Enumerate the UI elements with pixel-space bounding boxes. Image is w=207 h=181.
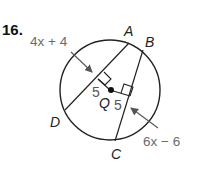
label-point-a: A <box>123 23 133 39</box>
label-center-q: Q <box>99 95 110 111</box>
label-distance-bc: 5 <box>114 97 122 113</box>
circle-chords-diagram: 16. 4x + 4 6x − 6 A B C D Q 5 <box>0 0 207 181</box>
center-point-q <box>108 87 114 93</box>
label-point-d: D <box>50 114 60 130</box>
arrow-ad-expression <box>71 52 92 72</box>
label-6x-minus-6: 6x − 6 <box>143 134 180 149</box>
label-point-b: B <box>145 34 154 50</box>
arrow-bc-expression <box>131 108 158 128</box>
geometry-figure: 4x + 4 6x − 6 A B C D Q 5 5 <box>0 0 207 181</box>
problem-number: 16. <box>2 21 23 38</box>
label-distance-ad: 5 <box>92 84 100 100</box>
label-point-c: C <box>111 146 122 162</box>
label-4x-plus-4: 4x + 4 <box>30 34 68 49</box>
